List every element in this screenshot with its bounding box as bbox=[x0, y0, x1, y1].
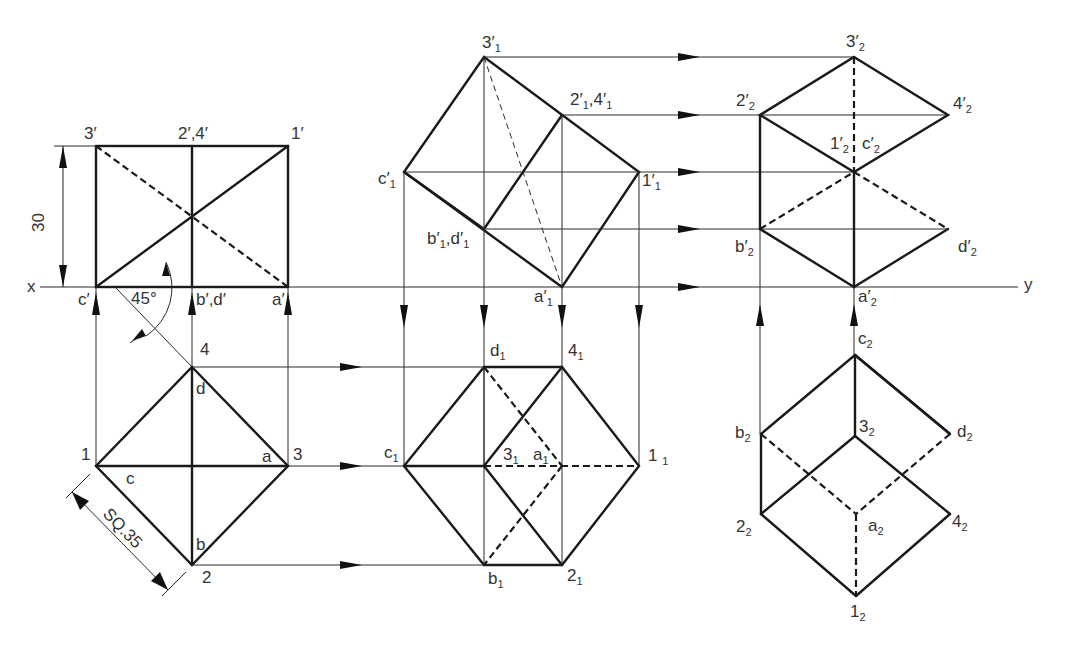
label-1-prime-1: 1′1 bbox=[642, 172, 661, 192]
projectors-final bbox=[756, 115, 858, 434]
label-3-1: 31 bbox=[503, 446, 519, 466]
label-2: 2 bbox=[202, 569, 211, 586]
label-1-prime: 1′ bbox=[291, 125, 304, 142]
label-3-prime-1: 3′1 bbox=[482, 34, 501, 54]
angle-construction bbox=[115, 262, 192, 367]
x-axis-label: x bbox=[27, 278, 36, 295]
label-b-d-prime-1: b′1,d′1 bbox=[427, 230, 469, 250]
height-dimension-text: 30 bbox=[30, 213, 47, 232]
label-2-4-prime: 2′,4′ bbox=[178, 125, 208, 142]
label-4: 4 bbox=[200, 341, 209, 358]
label-a-prime: a′ bbox=[272, 291, 285, 308]
label-d-1: d1 bbox=[490, 342, 506, 362]
label-d-prime-2: d′2 bbox=[958, 238, 977, 258]
label-b-prime-2: b′2 bbox=[735, 238, 754, 258]
label-3: 3 bbox=[293, 446, 302, 463]
label-a-1: a1 bbox=[533, 446, 549, 466]
final-top-view bbox=[761, 355, 950, 596]
label-a-2: a2 bbox=[868, 517, 884, 537]
label-3-prime-2: 3′2 bbox=[846, 33, 865, 53]
label-3-prime: 3′ bbox=[84, 125, 97, 142]
label-c-prime-2: c′2 bbox=[862, 135, 880, 155]
label-b: b bbox=[196, 536, 205, 553]
angle-dimension-text: 45° bbox=[131, 290, 157, 307]
label-2-1: 21 bbox=[567, 567, 583, 587]
projection-drawing: x y 30 45° SQ.35 3′ 2′,4′ 1′ c′ b′,d′ a′… bbox=[0, 0, 1065, 648]
label-4-prime-2: 4′2 bbox=[953, 95, 972, 115]
label-c-prime: c′ bbox=[78, 291, 90, 308]
label-c: c bbox=[126, 470, 135, 487]
label-b-d-prime: b′,d′ bbox=[196, 291, 226, 308]
label-b-2: b2 bbox=[735, 424, 751, 444]
label-b-1: b1 bbox=[488, 570, 504, 590]
label-2-4-prime-1: 2′1,4′1 bbox=[570, 91, 612, 111]
label-c-1: c1 bbox=[384, 444, 399, 464]
label-4-1: 41 bbox=[568, 342, 584, 362]
label-a: a bbox=[262, 448, 271, 465]
label-1-2: 12 bbox=[850, 603, 866, 623]
label-3-2: 32 bbox=[859, 418, 875, 438]
label-c-prime-1: c′1 bbox=[378, 170, 396, 190]
height-dimension bbox=[54, 146, 96, 287]
label-2-prime-2: 2′2 bbox=[736, 92, 755, 112]
label-1: 1 bbox=[81, 446, 90, 463]
label-c-2: c2 bbox=[858, 330, 873, 350]
label-1-1: 1 1 bbox=[648, 447, 668, 467]
initial-front-view bbox=[96, 146, 288, 287]
label-a-prime-1: a′1 bbox=[534, 288, 553, 308]
drawing-canvas bbox=[0, 0, 1065, 648]
tilted-top-view bbox=[404, 367, 639, 565]
label-1-prime-2: 1′2 bbox=[830, 135, 849, 155]
label-2-2: 22 bbox=[736, 518, 752, 538]
label-d-2: d2 bbox=[957, 423, 973, 443]
label-d: d bbox=[196, 380, 205, 397]
label-4-2: 42 bbox=[952, 513, 968, 533]
label-a-prime-2: a′2 bbox=[858, 288, 877, 308]
y-axis-label: y bbox=[1024, 276, 1033, 293]
